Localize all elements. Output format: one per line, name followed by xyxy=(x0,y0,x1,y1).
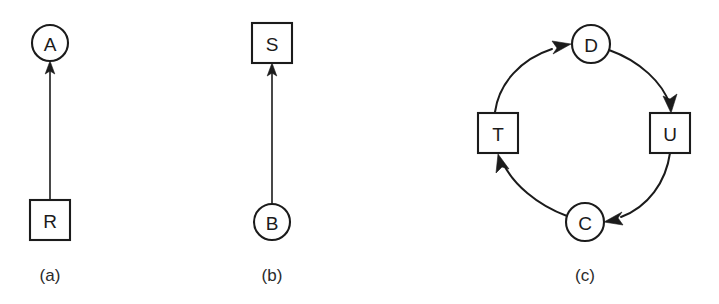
panel-b-caption: (b) xyxy=(262,266,283,285)
node-a[interactable]: A xyxy=(32,25,68,61)
panel-b: S B (b) xyxy=(252,23,292,285)
edge-d-to-u-arc xyxy=(609,50,670,105)
node-u[interactable]: U xyxy=(650,113,690,153)
node-s-label: S xyxy=(266,34,279,55)
edge-t-to-d-arrowhead-icon xyxy=(552,41,571,54)
edge-c-to-t-arc xyxy=(503,163,567,216)
edge-d-to-u-arrowhead-icon xyxy=(663,94,677,113)
node-d-label: D xyxy=(584,35,598,56)
panel-c-caption: (c) xyxy=(575,266,595,285)
node-a-label: A xyxy=(44,34,57,55)
edge-t-to-d-arc xyxy=(495,49,552,112)
node-r-label: R xyxy=(43,211,57,232)
node-t-label: T xyxy=(492,124,504,145)
resource-allocation-graph-figure: A R (a) S B xyxy=(0,0,719,304)
node-u-label: U xyxy=(663,124,677,145)
panel-a-caption: (a) xyxy=(40,266,61,285)
node-c[interactable]: C xyxy=(566,203,604,241)
node-d[interactable]: D xyxy=(572,25,610,63)
node-r[interactable]: R xyxy=(30,200,70,240)
node-t[interactable]: T xyxy=(478,113,518,153)
edge-u-to-c xyxy=(604,153,670,225)
edge-c-to-t xyxy=(496,154,567,216)
node-s[interactable]: S xyxy=(252,23,292,63)
figure-canvas: A R (a) S B xyxy=(0,0,719,304)
node-b[interactable]: B xyxy=(254,204,290,240)
node-c-label: C xyxy=(578,213,592,234)
edge-u-to-c-arc xyxy=(621,153,670,217)
panel-a: A R (a) xyxy=(30,25,70,285)
edge-b-to-s xyxy=(267,63,277,204)
edge-d-to-u xyxy=(609,50,677,113)
edge-u-to-c-arrowhead-icon xyxy=(604,212,623,225)
edge-t-to-d xyxy=(495,41,571,112)
node-b-label: B xyxy=(266,213,279,234)
edge-r-to-a xyxy=(45,61,55,200)
panel-c: D U C T (c) xyxy=(478,25,690,285)
